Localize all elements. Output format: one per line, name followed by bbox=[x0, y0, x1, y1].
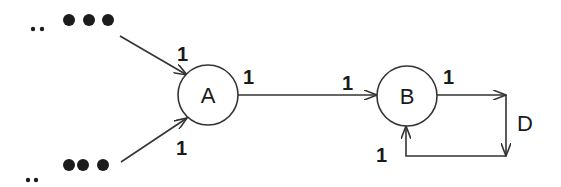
edge-label-top-a: 1 bbox=[177, 43, 188, 65]
node-b-label: B bbox=[400, 84, 415, 109]
big-dot bbox=[63, 159, 75, 171]
small-dot bbox=[40, 27, 44, 31]
big-dot bbox=[77, 159, 89, 171]
edge-label-b-out: 1 bbox=[443, 66, 454, 88]
node-a: A bbox=[178, 65, 238, 125]
small-dot bbox=[26, 178, 30, 182]
node-b: B bbox=[377, 66, 437, 126]
edge-label-b-loop-in: 1 bbox=[376, 144, 387, 166]
big-dot bbox=[63, 14, 75, 26]
ellipsis-top bbox=[31, 14, 114, 31]
small-dot bbox=[31, 27, 35, 31]
edge-label-a-out: 1 bbox=[243, 66, 254, 88]
big-dot bbox=[102, 14, 114, 26]
ellipsis-bottom bbox=[26, 159, 109, 182]
small-dot bbox=[34, 178, 38, 182]
diagram-canvas: A B D 1 1 1 1 1 1 bbox=[0, 0, 561, 187]
edge-label-bottom-a: 1 bbox=[176, 137, 187, 159]
big-dot bbox=[83, 14, 95, 26]
loop-label-d: D bbox=[517, 111, 533, 136]
node-a-label: A bbox=[201, 83, 216, 108]
edge-d-to-b bbox=[406, 126, 506, 156]
big-dot bbox=[97, 159, 109, 171]
edge-label-b-in: 1 bbox=[342, 72, 353, 94]
